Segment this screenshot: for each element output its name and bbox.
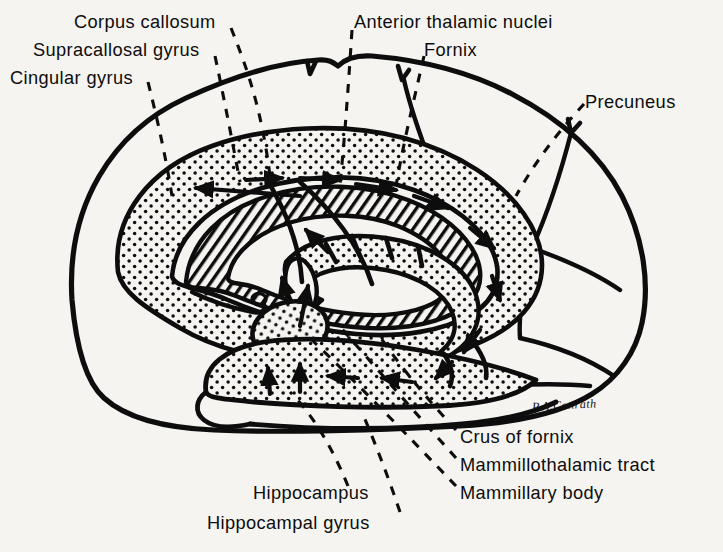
label-corpus-callosum: Corpus callosum [74,12,216,31]
label-cingular-gyrus: Cingular gyrus [10,68,133,87]
label-fornix: Fornix [424,40,477,59]
label-mammillothalamic-tract: Mammillothalamic tract [460,455,655,474]
label-crus-of-fornix: Crus of fornix [460,427,574,446]
label-supracallosal-gyrus: Supracallosal gyrus [33,40,199,59]
label-precuneus: Precuneus [585,92,676,111]
label-hippocampal-gyrus: Hippocampal gyrus [207,513,370,532]
label-hippocampus: Hippocampus [253,483,369,502]
label-mammillary-body: Mammillary body [460,483,604,502]
label-anterior-thalamic-nuclei: Anterior thalamic nuclei [354,12,553,31]
